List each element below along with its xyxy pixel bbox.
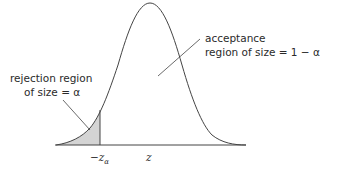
critical-value-symbol: −z: [90, 151, 104, 163]
rejection-leader-line: [63, 100, 90, 130]
acceptance-leader-line: [158, 39, 200, 76]
variable-label: z: [146, 151, 152, 164]
diagram-canvas: acceptance region of size = 1 − α reject…: [0, 0, 337, 172]
rejection-label-line1: rejection region: [10, 72, 92, 85]
critical-value-label: −zα: [90, 151, 109, 169]
critical-value-subscript: α: [104, 158, 109, 166]
acceptance-label-line1: acceptance: [205, 32, 266, 45]
acceptance-label-line2: region of size = 1 − α: [205, 46, 320, 59]
rejection-label-line2: of size = α: [24, 86, 80, 99]
rejection-region-shading: [56, 110, 100, 145]
